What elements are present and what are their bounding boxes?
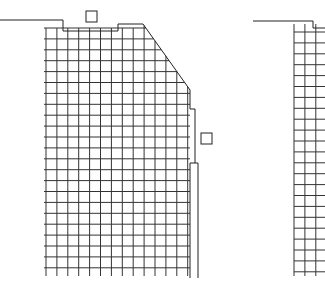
left-facade-outline [0,20,198,278]
building-elevation-drawing [0,0,325,289]
right-facade-outline [253,21,325,28]
chamfer-line [143,24,190,109]
right-roof-line [253,21,325,28]
roof-line [0,20,143,31]
right-facade-grid [294,24,325,276]
left-facade-grid [44,26,190,276]
marker-square [201,133,212,144]
bay-projection-line [190,109,195,278]
marker-square [86,11,97,22]
